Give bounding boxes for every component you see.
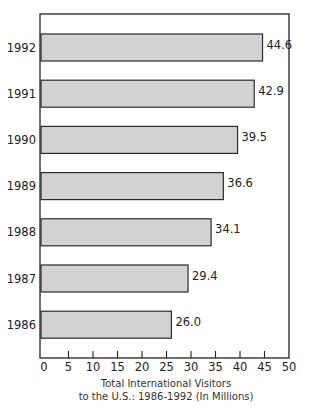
chart-canvas: 1992199119901989198819871986 44.642.939.… xyxy=(0,0,314,413)
caption-line-1: Total International Visitors xyxy=(100,378,231,389)
bar-1989 xyxy=(41,173,223,200)
bar-1992 xyxy=(41,34,263,61)
tick-label-45: 45 xyxy=(257,360,272,374)
value-label-1989: 36.6 xyxy=(227,176,253,190)
category-label-1992: 1992 xyxy=(7,41,36,55)
value-label-1992: 44.6 xyxy=(267,38,293,52)
tick-label-30: 30 xyxy=(184,360,199,374)
tick-label-40: 40 xyxy=(233,360,248,374)
caption-line-2: to the U.S.: 1986-1992 (In Millions) xyxy=(79,391,254,402)
x-axis-caption: Total International Visitors to the U.S.… xyxy=(79,378,254,402)
category-label-1990: 1990 xyxy=(7,133,36,147)
tick-label-5: 5 xyxy=(65,360,72,374)
category-label-1991: 1991 xyxy=(7,87,36,101)
x-axis-ticks: 05101520253035404550 xyxy=(40,351,296,374)
tick-label-20: 20 xyxy=(135,360,150,374)
bar-1991 xyxy=(41,80,254,107)
category-label-1988: 1988 xyxy=(7,225,36,239)
tick-label-10: 10 xyxy=(86,360,101,374)
bar-chart: 1992199119901989198819871986 44.642.939.… xyxy=(0,0,314,413)
tick-label-35: 35 xyxy=(208,360,223,374)
value-label-1987: 29.4 xyxy=(192,269,218,283)
value-label-1988: 34.1 xyxy=(215,222,241,236)
category-label-1989: 1989 xyxy=(7,179,36,193)
value-label-1990: 39.5 xyxy=(242,130,268,144)
bar-1988 xyxy=(41,219,211,246)
value-label-1991: 42.9 xyxy=(258,84,284,98)
tick-label-50: 50 xyxy=(282,360,297,374)
category-label-1986: 1986 xyxy=(7,318,36,332)
tick-label-0: 0 xyxy=(40,360,47,374)
bar-1987 xyxy=(41,265,188,292)
bar-1986 xyxy=(41,311,171,338)
tick-label-15: 15 xyxy=(110,360,125,374)
tick-label-25: 25 xyxy=(159,360,174,374)
category-label-1987: 1987 xyxy=(7,272,36,286)
bar-1990 xyxy=(41,126,238,153)
value-label-1986: 26.0 xyxy=(175,315,201,329)
category-labels: 1992199119901989198819871986 xyxy=(7,41,36,332)
